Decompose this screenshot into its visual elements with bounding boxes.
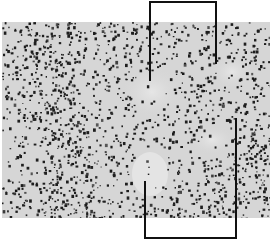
top-bracket-line [149,1,217,64]
top-bracket-left-leg [149,1,151,81]
bottom-bracket-right-leg [144,118,237,239]
